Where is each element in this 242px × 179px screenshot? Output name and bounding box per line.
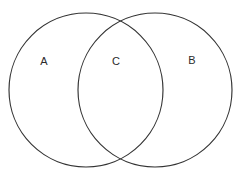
set-a-label: A: [40, 55, 48, 67]
set-b-label: B: [188, 54, 196, 66]
intersection-label: C: [112, 55, 120, 67]
venn-diagram-canvas: A C B: [0, 0, 242, 179]
diagram-background: [0, 0, 242, 179]
venn-diagram: A C B: [0, 0, 242, 179]
